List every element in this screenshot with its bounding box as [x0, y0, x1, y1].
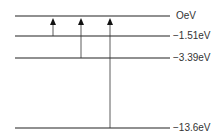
transition-arrow-2 [78, 18, 84, 58]
transition-arrow-1 [50, 18, 56, 36]
transition-arrow-3 [107, 18, 113, 128]
level-label-13-6ev: −13.6eV [173, 123, 211, 133]
energy-level-diagram: OeV −1.51eV −3.39eV −13.6eV [0, 0, 219, 140]
diagram-canvas [0, 0, 219, 140]
level-label-3-39ev: −3.39eV [173, 53, 211, 63]
level-label-0ev: OeV [176, 11, 196, 21]
level-label-1-51ev: −1.51eV [173, 31, 211, 41]
